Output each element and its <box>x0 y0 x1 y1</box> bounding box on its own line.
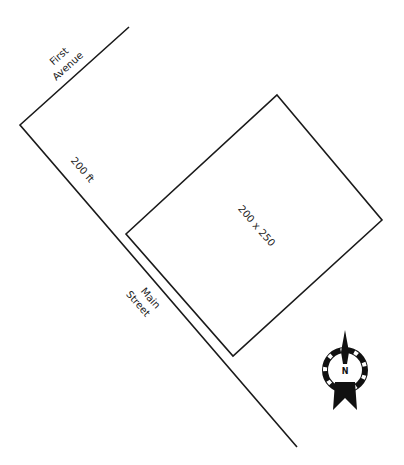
site-plan-diagram: First Avenue 200 ft 200 x 250 Main Stree… <box>0 0 404 465</box>
street-lines <box>20 27 297 447</box>
north-arrow-icon: N <box>321 330 370 410</box>
main-street-label: Main Street <box>124 280 163 319</box>
lot-size-label: 200 x 250 <box>236 203 277 248</box>
frontage-label: 200 ft <box>69 155 97 185</box>
compass-n-label: N <box>342 367 349 376</box>
first-avenue-label: First Avenue <box>41 40 85 83</box>
